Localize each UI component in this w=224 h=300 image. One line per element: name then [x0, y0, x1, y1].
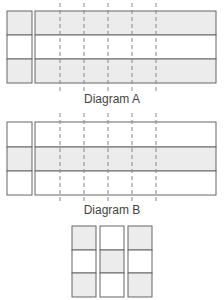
- diagram-a-left-box: [7, 11, 32, 83]
- diagram-c: [72, 226, 152, 297]
- diagram-b-label: Diagram B: [0, 203, 224, 217]
- diagram-canvas: [0, 0, 224, 300]
- diagram-c-column-1: [72, 226, 96, 297]
- diagram-b: [7, 113, 216, 202]
- diagram-b-left-box: [7, 122, 32, 195]
- diagram-a-label: Diagram A: [0, 92, 224, 106]
- diagram-a: [7, 3, 216, 92]
- diagram-b-main-box: [35, 122, 216, 195]
- diagram-c-column-3: [128, 226, 152, 297]
- diagram-a-main-box: [35, 11, 216, 83]
- diagram-c-column-2: [100, 226, 124, 297]
